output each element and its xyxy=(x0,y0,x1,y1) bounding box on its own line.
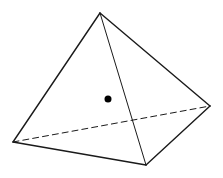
edge-left-right-hidden xyxy=(13,106,210,142)
tetrahedron-svg xyxy=(0,0,223,178)
edge-apex-right xyxy=(100,13,210,106)
tetrahedron-diagram xyxy=(0,0,223,178)
edge-bottom-right xyxy=(146,106,210,165)
edge-apex-left xyxy=(13,13,100,142)
edge-left-bottom xyxy=(13,142,146,165)
center-point xyxy=(105,96,112,103)
edge-apex-bottom xyxy=(100,13,146,165)
